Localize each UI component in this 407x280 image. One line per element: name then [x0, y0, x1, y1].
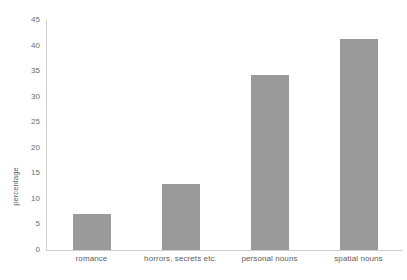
- y-axis-tick-label: 20: [18, 144, 40, 152]
- y-axis-tick-label: 0: [18, 246, 40, 254]
- y-axis-tick-label: 30: [18, 93, 40, 101]
- x-axis-tick-label: personal nouns: [225, 254, 314, 263]
- y-axis-tick-label: 10: [18, 195, 40, 203]
- x-axis-line: [46, 250, 403, 251]
- bar-chart: percentage 051015202530354045 romancehor…: [0, 0, 407, 280]
- x-axis-tick-label: spatial nouns: [314, 254, 403, 263]
- bar: [251, 75, 289, 250]
- x-axis-tick-labels: romancehorrors, secrets etc.personal nou…: [47, 254, 403, 274]
- y-axis-tick-label: 35: [18, 67, 40, 75]
- bar: [73, 214, 111, 250]
- y-axis-tick-label: 15: [18, 169, 40, 177]
- x-axis-tick-label: romance: [47, 254, 136, 263]
- y-axis-tick-label: 5: [18, 220, 40, 228]
- plot-area: [47, 20, 403, 250]
- bar: [162, 184, 200, 250]
- y-axis-tick-label: 40: [18, 42, 40, 50]
- y-axis-tick-labels: 051015202530354045: [18, 0, 40, 280]
- y-axis-tick-label: 45: [18, 16, 40, 24]
- y-axis-tick-label: 25: [18, 118, 40, 126]
- x-axis-tick-label: horrors, secrets etc.: [136, 254, 225, 263]
- bar: [340, 39, 378, 250]
